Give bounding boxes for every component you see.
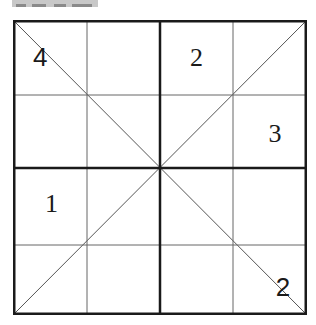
- sudoku-board: 4 2 3 1 2: [13, 20, 307, 315]
- label-fragment: [16, 4, 26, 7]
- cell-r3-c2[interactable]: [160, 245, 233, 315]
- cell-r3-c1[interactable]: [87, 245, 160, 315]
- cell-r1-c1[interactable]: [87, 95, 160, 168]
- cell-r3-c3[interactable]: 2: [233, 245, 307, 315]
- label-fragment: [54, 4, 66, 7]
- cell-r0-c2[interactable]: 2: [160, 20, 233, 95]
- cell-r2-c3[interactable]: [233, 168, 307, 245]
- cell-r3-c0[interactable]: [13, 245, 87, 315]
- label-fragment: [32, 4, 46, 7]
- cell-r2-c2[interactable]: [160, 168, 233, 245]
- cell-r1-c2[interactable]: [160, 95, 233, 168]
- label-fragment: [72, 4, 92, 7]
- cell-r2-c0[interactable]: 1: [13, 168, 87, 245]
- cell-r1-c0[interactable]: [13, 95, 87, 168]
- cell-r0-c0[interactable]: 4: [13, 20, 87, 95]
- cell-r2-c1[interactable]: [87, 168, 160, 245]
- puzzle-label: [12, 0, 98, 7]
- cell-r0-c3[interactable]: [233, 20, 307, 95]
- cell-r1-c3[interactable]: 3: [233, 95, 307, 168]
- cell-r0-c1[interactable]: [87, 20, 160, 95]
